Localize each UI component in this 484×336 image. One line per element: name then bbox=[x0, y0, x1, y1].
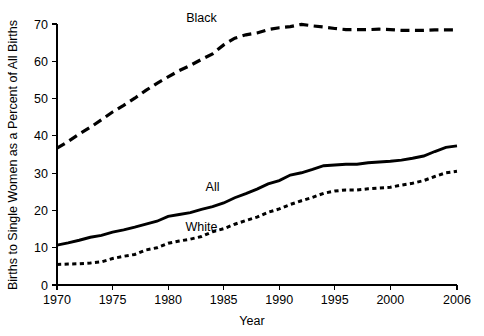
y-axis-group: 010203040506070 bbox=[34, 18, 57, 293]
x-tick-label: 1990 bbox=[265, 293, 293, 307]
y-tick-label: 40 bbox=[34, 129, 48, 143]
series-annotation-labels: BlackAllWhite bbox=[185, 11, 219, 234]
y-tick-label: 10 bbox=[34, 241, 48, 255]
x-tick-label: 1995 bbox=[321, 293, 349, 307]
x-axis-group: 19701975198019851990199520002006 bbox=[43, 285, 471, 307]
x-tick-label: 1975 bbox=[99, 293, 127, 307]
x-tick-label: 2000 bbox=[376, 293, 404, 307]
y-tick-label: 20 bbox=[34, 204, 48, 218]
y-tick-label: 30 bbox=[34, 167, 48, 181]
line-chart: 010203040506070 197019751980198519901995… bbox=[0, 0, 484, 336]
y-tick-label: 60 bbox=[34, 55, 48, 69]
x-axis-title: Year bbox=[239, 314, 264, 328]
x-tick-label: 1970 bbox=[43, 293, 71, 307]
y-axis-ticks: 010203040506070 bbox=[34, 18, 57, 293]
chart-container: 010203040506070 197019751980198519901995… bbox=[0, 0, 484, 336]
series-line-black bbox=[57, 24, 457, 148]
series-label-black: Black bbox=[186, 11, 217, 25]
series-line-white bbox=[57, 171, 457, 264]
y-axis-title: Births to Single Women as a Percent of A… bbox=[6, 20, 20, 290]
y-tick-label: 0 bbox=[41, 279, 48, 293]
series-label-white: White bbox=[185, 220, 217, 234]
y-tick-label: 50 bbox=[34, 92, 48, 106]
series-label-all: All bbox=[206, 180, 220, 194]
x-axis-ticks: 19701975198019851990199520002006 bbox=[43, 285, 471, 307]
y-tick-label: 70 bbox=[34, 18, 48, 32]
x-tick-label: 2006 bbox=[443, 293, 471, 307]
data-series-group bbox=[57, 24, 457, 264]
x-tick-label: 1980 bbox=[154, 293, 182, 307]
x-tick-label: 1985 bbox=[210, 293, 238, 307]
series-line-all bbox=[57, 146, 457, 245]
